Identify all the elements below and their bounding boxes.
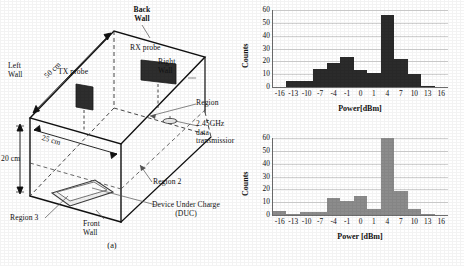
- y-axis-tick-0: 0: [266, 83, 270, 90]
- label-region-1: Region: [196, 99, 219, 108]
- label-duc: Device Under Charge (DUC): [140, 201, 232, 218]
- x-axis-tick--13: -13: [288, 90, 298, 97]
- y-axis-tick-60: 60: [263, 134, 270, 141]
- label-transmitter: 2.45GHz data transmissior: [196, 120, 234, 146]
- y-axis-tick-10: 10: [263, 198, 270, 205]
- y-axis-tick-30: 30: [263, 173, 270, 180]
- panel-b-histograms: Counts 0102030405060-16-13-10-7-4-101471…: [232, 0, 464, 266]
- plot-area-bottom: 0102030405060-16-13-10-7-4-10147101316: [272, 138, 448, 216]
- x-axis-tick-7: 7: [399, 218, 403, 225]
- bar: [286, 214, 299, 215]
- label-region-2: Region 2: [153, 178, 181, 187]
- x-axis-tick--4: -4: [330, 90, 336, 97]
- label-region-3: Region 3: [10, 214, 38, 223]
- label-back-wall-line2: Wall: [118, 15, 166, 24]
- x-axis-tick-10: 10: [411, 218, 418, 225]
- y-axis-tick-30: 30: [263, 45, 270, 52]
- x-axis-tick--4: -4: [330, 218, 336, 225]
- y-axis-title-top: Counts: [241, 44, 250, 68]
- bar: [340, 201, 353, 215]
- y-axis-tick-50: 50: [263, 19, 270, 26]
- bar-series: [273, 10, 448, 87]
- bar: [367, 209, 380, 215]
- y-axis-title-bottom: Counts: [241, 172, 250, 196]
- label-front-wall-line2: Wall: [83, 229, 100, 238]
- bar: [367, 73, 380, 87]
- x-axis-tick--10: -10: [302, 218, 312, 225]
- bar: [394, 191, 407, 215]
- label-left-wall: Left Wall: [8, 62, 23, 79]
- bar: [394, 59, 407, 87]
- bar: [300, 81, 313, 87]
- x-axis-tick--7: -7: [317, 90, 323, 97]
- x-axis-tick--1: -1: [344, 218, 350, 225]
- x-axis-tick-13: 13: [424, 218, 431, 225]
- x-axis-tick-1: 1: [372, 218, 376, 225]
- bar: [300, 212, 313, 215]
- y-axis-tick-50: 50: [263, 147, 270, 154]
- panel-a-chamber-diagram: Back Wall Left Wall Right Wall Front Wal…: [0, 0, 232, 266]
- label-left-wall-line2: Wall: [8, 71, 23, 80]
- y-axis-tick-60: 60: [263, 6, 270, 13]
- x-axis-tick-1: 1: [372, 90, 376, 97]
- label-tx-probe: TX probe: [58, 68, 88, 77]
- x-axis-tick-16: 16: [438, 90, 445, 97]
- label-duc-line2: (DUC): [140, 210, 232, 219]
- y-axis-tick-20: 20: [263, 186, 270, 193]
- label-rx-probe: RX probe: [130, 44, 161, 53]
- x-axis-tick-4: 4: [386, 90, 390, 97]
- y-axis-tick-20: 20: [263, 58, 270, 65]
- dimension-height-20cm: 20 cm: [1, 155, 20, 164]
- y-axis-tick-10: 10: [263, 70, 270, 77]
- y-axis-tick-40: 40: [263, 160, 270, 167]
- label-front-wall: Front Wall: [83, 220, 100, 237]
- bar: [381, 15, 394, 87]
- figure-root: Back Wall Left Wall Right Wall Front Wal…: [0, 0, 464, 266]
- x-axis-title-top: Power[dBm]: [272, 104, 448, 113]
- bar: [354, 70, 367, 87]
- caption-panel-a: (a): [92, 241, 132, 250]
- bar: [313, 212, 326, 215]
- x-axis-tick--16: -16: [275, 90, 285, 97]
- y-axis-tick-0: 0: [266, 211, 270, 218]
- bar: [421, 86, 434, 87]
- x-axis-tick-0: 0: [359, 90, 363, 97]
- histogram-bottom: Counts 0102030405060-16-13-10-7-4-101471…: [232, 132, 464, 254]
- bar: [327, 63, 340, 87]
- label-transmitter-line3: transmissior: [196, 137, 234, 146]
- x-axis-tick--10: -10: [302, 90, 312, 97]
- x-axis-tick-7: 7: [399, 90, 403, 97]
- x-axis-tick-4: 4: [386, 218, 390, 225]
- bar: [381, 138, 394, 215]
- bar: [286, 81, 299, 87]
- bar: [273, 211, 286, 215]
- plot-area-top: 0102030405060-16-13-10-7-4-10147101316: [272, 10, 448, 88]
- bar: [421, 214, 434, 215]
- plot-frame-bottom: 0102030405060-16-13-10-7-4-10147101316: [272, 138, 448, 216]
- bar: [408, 209, 421, 215]
- label-back-wall: Back Wall: [118, 6, 166, 23]
- plot-frame-top: 0102030405060-16-13-10-7-4-10147101316: [272, 10, 448, 88]
- bar: [313, 69, 326, 87]
- y-axis-tick-40: 40: [263, 32, 270, 39]
- label-right-wall: Right Wall: [158, 58, 175, 75]
- x-axis-tick--7: -7: [317, 218, 323, 225]
- bar: [408, 74, 421, 87]
- bar: [340, 57, 353, 87]
- x-axis-tick--1: -1: [344, 90, 350, 97]
- x-axis-tick--16: -16: [275, 218, 285, 225]
- x-axis-tick-10: 10: [411, 90, 418, 97]
- x-axis-tick--13: -13: [288, 218, 298, 225]
- histogram-top: Counts 0102030405060-16-13-10-7-4-101471…: [232, 4, 464, 126]
- x-axis-tick-0: 0: [359, 218, 363, 225]
- label-right-wall-line2: Wall: [158, 67, 175, 76]
- x-axis-tick-16: 16: [438, 218, 445, 225]
- x-axis-title-bottom: Power [dBm]: [272, 232, 448, 241]
- bar-series: [273, 138, 448, 215]
- bar: [327, 198, 340, 215]
- x-axis-tick-13: 13: [424, 90, 431, 97]
- bar: [354, 196, 367, 215]
